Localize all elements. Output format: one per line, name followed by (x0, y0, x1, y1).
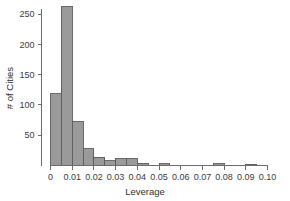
histogram-bar (126, 159, 137, 166)
x-tick-label: 0.05 (150, 172, 168, 182)
y-tick-label: 100 (19, 100, 34, 110)
histogram-bar (51, 94, 62, 166)
x-tick-label: 0.01 (63, 172, 81, 182)
y-tick-label: 150 (19, 70, 34, 80)
y-tick-label: 250 (19, 9, 34, 19)
x-tick-label: 0.08 (215, 172, 233, 182)
histogram-bar (83, 149, 94, 166)
y-tick-group (38, 14, 42, 135)
x-tick-label: 0.03 (107, 172, 125, 182)
x-tick-label: 0.06 (172, 172, 190, 182)
x-tick-label: 0.10 (259, 172, 277, 182)
y-tick-label-group: 50100150200250 (19, 9, 34, 140)
x-tick-label: 0 (48, 172, 53, 182)
x-tick-label: 0.02 (85, 172, 103, 182)
histogram-bar (72, 122, 83, 166)
x-tick-label-group: 00.010.020.030.040.050.060.070.080.090.1… (48, 172, 276, 182)
x-tick-label: 0.09 (237, 172, 255, 182)
histogram-bar (116, 159, 127, 166)
x-axis-title: Leverage (125, 186, 165, 197)
x-tick-group (51, 166, 268, 170)
histogram-bar (105, 161, 116, 166)
histogram-bar (94, 157, 105, 165)
y-tick-label: 50 (24, 130, 34, 140)
leverage-histogram-plot: 00.010.020.030.040.050.060.070.080.090.1… (0, 0, 290, 201)
x-tick-label: 0.04 (129, 172, 147, 182)
y-axis-title: # of Cities (4, 67, 15, 109)
y-tick-label: 200 (19, 40, 34, 50)
histogram-bar (61, 7, 72, 166)
x-tick-label: 0.07 (194, 172, 212, 182)
bars-group (51, 7, 257, 166)
histogram-figure: 00.010.020.030.040.050.060.070.080.090.1… (0, 0, 290, 201)
